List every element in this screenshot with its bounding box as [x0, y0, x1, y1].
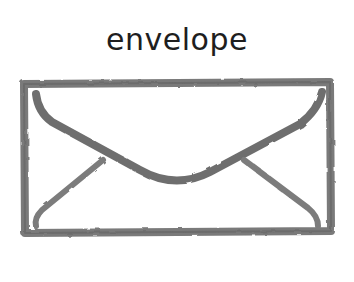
envelope-fold-left	[36, 160, 103, 226]
envelope-icon	[0, 0, 354, 282]
envelope-fold-right	[244, 160, 318, 226]
envelope-flap	[36, 92, 322, 181]
envelope-outline	[24, 82, 331, 233]
